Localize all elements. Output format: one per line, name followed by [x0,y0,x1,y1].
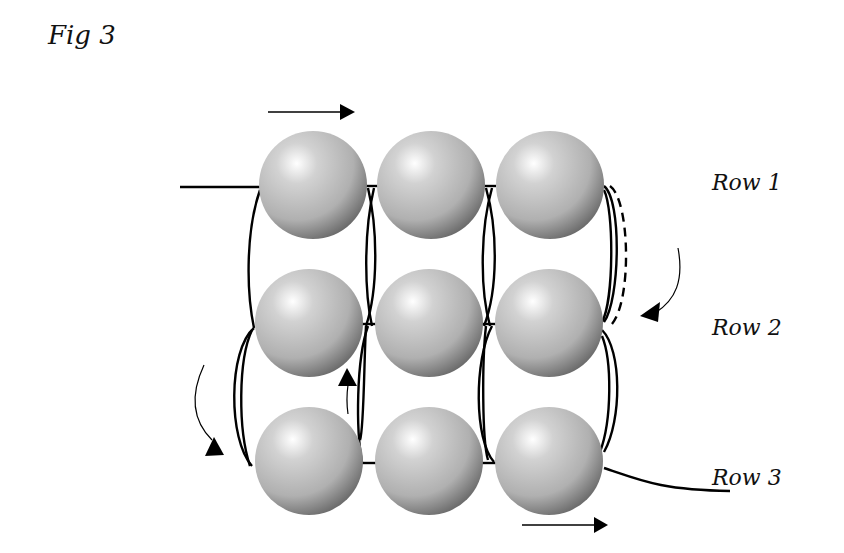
thread-loop-right-r1r2 [602,190,611,322]
bead-row3-col1 [255,407,363,515]
bead-row2-col3 [495,269,603,377]
bead-row3-col3 [495,407,603,515]
bottom-direction-arrow [522,517,608,533]
thread-loop-left-r2r3 [241,330,252,466]
top-direction-arrow [268,104,355,120]
bead-row3-col2 [375,407,483,515]
thread-cross-c23-r2r3 [479,326,494,462]
beads [255,131,604,515]
row-label-1: Row 1 [712,170,782,195]
bead-row1-col1 [259,131,367,239]
thread-loop-right-r2r3 [600,336,609,452]
row-label-2: Row 2 [712,315,782,340]
row-label-3: Row 3 [712,465,782,490]
left-turn-arrow [195,365,224,456]
bead-row2-col2 [375,269,483,377]
bead-row1-col2 [377,131,485,239]
bead-row1-col3 [496,131,604,239]
right-turn-arrow [640,248,680,322]
bead-row2-col1 [255,269,363,377]
middle-up-arrow [338,368,357,414]
